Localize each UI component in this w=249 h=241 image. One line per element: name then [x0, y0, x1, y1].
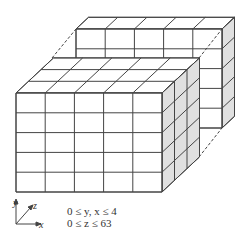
cube-grid-diagram: y z x 0 ≤ y, x ≤ 4 0 ≤ z ≤ 63 — [0, 0, 249, 241]
range-z: 0 ≤ z ≤ 63 — [67, 217, 111, 229]
axis-y-label: y — [13, 197, 17, 208]
range-xy: 0 ≤ y, x ≤ 4 — [67, 205, 117, 217]
axis-x-label: x — [39, 219, 43, 230]
cube-grid-svg — [0, 0, 249, 241]
axis-z-label: z — [33, 200, 37, 211]
